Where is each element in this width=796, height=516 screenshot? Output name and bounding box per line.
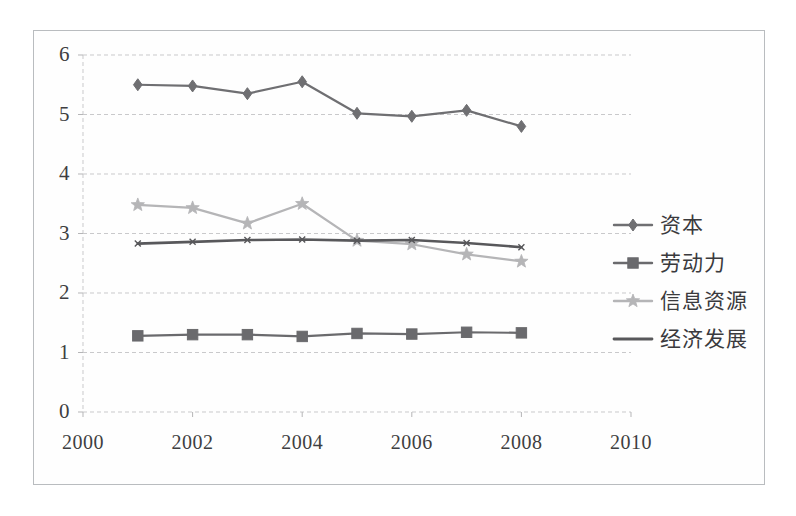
legend-item-2[interactable]: 信息资源 <box>612 282 762 320</box>
data-point-square <box>461 327 471 337</box>
chart-legend: 资本劳动力信息资源经济发展 <box>612 206 762 358</box>
data-point-diamond <box>353 107 362 119</box>
legend-item-0[interactable]: 资本 <box>612 206 762 244</box>
data-point-diamond <box>243 88 252 100</box>
data-point-star <box>131 198 144 211</box>
series-0 <box>133 76 525 133</box>
data-point-star <box>515 254 528 267</box>
x-tick-label-2002: 2002 <box>164 431 222 454</box>
legend-marker-line-icon <box>612 329 654 349</box>
data-point-square <box>133 331 143 341</box>
data-point-star <box>241 216 254 229</box>
x-tick-label-2008: 2008 <box>492 431 550 454</box>
data-point-diamond <box>629 219 638 231</box>
data-point-star <box>626 294 639 307</box>
legend-label-1: 劳动力 <box>660 253 726 274</box>
data-point-square <box>297 331 307 341</box>
plot-area: 0123456200020022004200620082010 资本劳动力信息资… <box>34 31 764 484</box>
data-point-square <box>407 329 417 339</box>
legend-marker-star-icon <box>612 291 654 311</box>
legend-label-3: 经济发展 <box>660 329 748 350</box>
data-point-star <box>186 201 199 214</box>
y-tick-label-2: 2 <box>38 280 70 305</box>
y-tick-label-0: 0 <box>38 399 70 424</box>
y-tick-label-4: 4 <box>38 161 70 186</box>
y-tick-label-3: 3 <box>38 221 70 246</box>
data-point-star <box>460 247 473 260</box>
series-1 <box>133 327 527 342</box>
legend-label-0: 资本 <box>660 215 704 236</box>
legend-marker-square-icon <box>612 253 654 273</box>
data-point-diamond <box>298 76 307 88</box>
chart-frame: 0123456200020022004200620082010 资本劳动力信息资… <box>33 30 765 485</box>
x-tick-label-2000: 2000 <box>54 431 112 454</box>
data-point-square <box>187 329 197 339</box>
x-tick-label-2004: 2004 <box>273 431 331 454</box>
legend-marker-diamond-icon <box>612 215 654 235</box>
legend-label-2: 信息资源 <box>660 291 748 312</box>
data-point-square <box>628 258 638 268</box>
legend-item-3[interactable]: 经济发展 <box>612 320 762 358</box>
data-point-diamond <box>517 120 526 132</box>
x-tick-label-2006: 2006 <box>383 431 441 454</box>
data-point-diamond <box>188 80 197 92</box>
x-tick-label-2010: 2010 <box>602 431 660 454</box>
data-point-square <box>516 328 526 338</box>
y-tick-label-6: 6 <box>38 42 70 67</box>
legend-item-1[interactable]: 劳动力 <box>612 244 762 282</box>
data-point-diamond <box>407 110 416 122</box>
series-2 <box>131 197 528 267</box>
y-tick-label-5: 5 <box>38 102 70 127</box>
y-tick-label-1: 1 <box>38 340 70 365</box>
data-point-square <box>242 329 252 339</box>
data-point-diamond <box>133 79 142 91</box>
data-point-square <box>352 328 362 338</box>
